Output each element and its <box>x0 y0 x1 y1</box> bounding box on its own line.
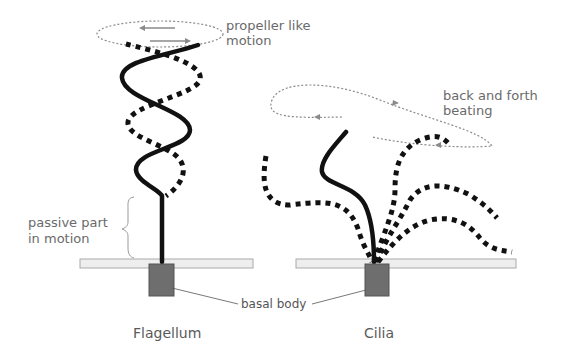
cilia-basal-body <box>365 264 389 296</box>
propeller-motion-path <box>97 21 223 47</box>
basal-body-leader-right <box>312 290 366 304</box>
basal-body-label: basal body <box>241 297 306 312</box>
cilia-dotted-positions <box>264 137 512 262</box>
propeller-label-line2: motion <box>226 33 272 48</box>
cilia-title: Cilia <box>364 326 394 341</box>
passive-label-line2: in motion <box>28 231 90 246</box>
propeller-label-line1: propeller like <box>226 18 311 33</box>
passive-label-line1: passive part <box>28 215 108 230</box>
membrane-right <box>296 259 516 268</box>
cilia-solid <box>322 132 374 262</box>
passive-brace <box>122 197 134 258</box>
flagellum-basal-body <box>149 264 174 296</box>
diagram-canvas: propeller like motion back and forth bea… <box>0 0 563 359</box>
beating-label-line1: back and forth <box>443 88 538 103</box>
flagellum-helix-solid <box>122 45 198 262</box>
basal-body-leader-left <box>172 288 238 304</box>
flagellum-title: Flagellum <box>133 326 201 341</box>
beating-label-line2: beating <box>443 103 492 118</box>
